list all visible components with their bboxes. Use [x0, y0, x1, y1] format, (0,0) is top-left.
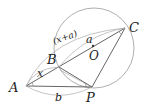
length-label-AB: x: [37, 67, 44, 80]
length-label-AC: (x+a): [52, 29, 79, 46]
angle-mark-C: [119, 32, 121, 35]
label-B: B: [46, 52, 57, 67]
length-label-AP: b: [55, 91, 62, 104]
label-A: A: [8, 80, 18, 95]
circumcircle: [54, 8, 134, 88]
label-P: P: [85, 90, 95, 105]
segment-BP: [59, 67, 92, 87]
label-O: O: [89, 49, 99, 63]
length-label-BC: a: [86, 33, 93, 46]
angle-mark-A: [32, 83, 33, 87]
geometry-diagram: A B C P O (x+a) a x b: [0, 0, 149, 109]
label-C: C: [129, 20, 139, 35]
